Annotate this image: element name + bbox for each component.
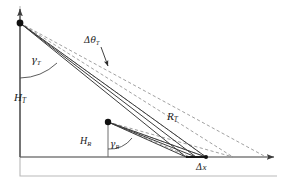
label-transmitter-height-base: H [14,91,22,103]
label-ground-offset-var: x [203,162,207,172]
label-transmitter-angle: γT [31,55,41,65]
transmitter-rays [20,23,206,157]
receiver-beam-envelope [108,122,233,157]
target-node [204,155,208,159]
label-ground-offset: Δx [196,163,207,172]
label-transmitter-height: HT [14,92,26,103]
beam-spread-leader [101,47,108,66]
label-transmitter-range-sub: T [174,116,178,124]
label-transmitter-height-sub: T [22,97,26,105]
label-transmitter-range-base: R [167,110,174,122]
figure-canvas: HT HR γT γR ΔθT RT Δx [0,0,286,183]
label-receiver-height-sub: R [87,140,91,147]
transmitter-beam-envelope [20,23,266,157]
label-receiver-angle-sub: R [115,144,119,150]
label-beam-spread-sub: T [96,40,99,46]
receiver-node [105,119,111,125]
label-receiver-angle: γR [110,140,119,149]
label-beam-spread-base: Δθ [84,35,96,45]
diagram-svg [0,0,286,183]
plot-frame [20,6,277,176]
label-transmitter-angle-sub: T [37,59,41,66]
transmitter-node [17,20,24,27]
label-beam-spread: ΔθT [84,36,99,45]
label-transmitter-range: RT [167,111,178,122]
label-receiver-height: HR [80,136,91,146]
